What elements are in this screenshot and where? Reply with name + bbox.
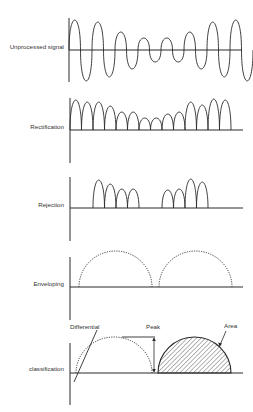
rectified-hump — [116, 112, 128, 130]
rectified-hump — [162, 114, 174, 130]
area-leader-line — [220, 331, 226, 345]
envelope-arch — [159, 251, 232, 287]
annotation-area: Area — [224, 322, 237, 329]
differential-tangent-line — [74, 330, 97, 382]
rejected-hump — [197, 182, 209, 208]
rejected-hump — [105, 184, 117, 208]
area-hatched-arch — [158, 337, 231, 373]
rectified-hump — [82, 102, 94, 130]
label-enveloping: Enveloping — [0, 280, 64, 287]
panel-rejection — [70, 177, 243, 241]
rectified-hump — [151, 118, 163, 130]
envelope-arch — [79, 251, 152, 287]
rectified-hump — [105, 106, 117, 130]
panel-classification — [70, 330, 243, 405]
rejected-hump — [128, 189, 140, 208]
label-classification: classification — [0, 365, 64, 372]
panel-rectification — [70, 98, 243, 163]
rejected-hump — [185, 179, 197, 208]
rectified-hump — [128, 112, 140, 130]
label-rejection: Rejection — [0, 201, 64, 208]
rectified-hump — [139, 118, 151, 130]
rectified-hump — [208, 99, 220, 130]
rejected-hump — [116, 189, 128, 208]
panel-unprocessed — [69, 18, 253, 82]
panels-layer — [69, 18, 253, 405]
rectified-hump — [197, 105, 209, 130]
rejected-hump — [174, 189, 186, 208]
rejected-hump — [162, 190, 174, 208]
peak-arrow-head-down — [152, 369, 156, 373]
label-rectification: Rectification — [0, 123, 64, 130]
panel-enveloping — [70, 251, 243, 320]
rectified-hump — [220, 100, 232, 130]
annotation-differential: Differential — [70, 323, 99, 330]
envelope-arch-dotted — [76, 337, 152, 373]
rectified-hump — [185, 102, 197, 130]
annotation-peak: Peak — [146, 323, 160, 330]
peak-arrow-head-up — [152, 338, 156, 342]
rectified-hump — [174, 112, 186, 130]
rectified-hump — [93, 102, 105, 130]
rejected-hump — [93, 180, 105, 208]
label-unprocessed-signal: Unprocessed signal — [0, 43, 64, 50]
rectified-hump — [70, 100, 82, 130]
